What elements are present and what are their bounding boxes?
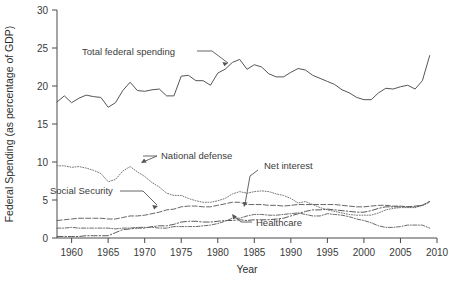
chart-background	[0, 0, 449, 285]
x-tick-label: 2005	[389, 247, 412, 258]
y-tick-label: 20	[37, 81, 49, 92]
y-tick-label: 15	[37, 119, 49, 130]
x-tick-label: 1965	[97, 247, 120, 258]
chart-figure: 051015202530 196019651970197519801985199…	[0, 0, 449, 285]
net-interest-label: Net interest	[264, 160, 313, 171]
y-tick-label: 30	[37, 5, 49, 16]
x-tick-label: 1970	[134, 247, 157, 258]
x-axis-title: Year	[236, 263, 258, 275]
national-defense-label: National defense	[161, 150, 232, 161]
social-security-label: Social Security	[50, 185, 113, 196]
y-tick-label: 5	[42, 195, 48, 206]
y-tick-label: 0	[42, 233, 48, 244]
x-tick-label: 1995	[316, 247, 339, 258]
y-axis-title: Federal Spending (as percentage of GDP)	[3, 26, 15, 223]
x-tick-label: 1960	[60, 247, 83, 258]
healthcare-label: Healthcare	[256, 217, 302, 228]
federal-spending-line-chart: 051015202530 196019651970197519801985199…	[0, 0, 449, 285]
y-tick-label: 25	[37, 43, 49, 54]
total-federal-spending-label: Total federal spending	[82, 46, 175, 57]
y-tick-label: 10	[37, 157, 49, 168]
x-tick-label: 2000	[353, 247, 376, 258]
x-tick-label: 1980	[207, 247, 230, 258]
x-tick-label: 2010	[426, 247, 449, 258]
x-tick-label: 1985	[243, 247, 266, 258]
x-tick-label: 1975	[170, 247, 193, 258]
x-tick-label: 1990	[280, 247, 303, 258]
